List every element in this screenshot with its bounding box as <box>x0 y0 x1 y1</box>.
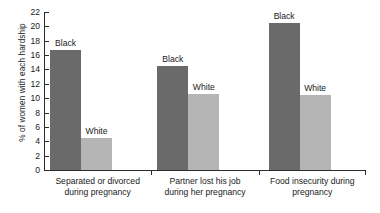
x-axis-group-separator <box>151 170 152 175</box>
plot-area: 0246810121416182022BlackWhiteBlackWhiteB… <box>44 12 366 170</box>
y-axis-tick <box>45 98 49 99</box>
y-axis-tick <box>45 170 49 171</box>
x-axis-category-label-2: Food insecurity duringpregnancy <box>259 176 366 197</box>
bar-chart: % of women with each hardship 0246810121… <box>0 0 380 213</box>
y-axis-tick-label: 8 <box>0 109 40 118</box>
bar-label-black-group-0: Black <box>46 39 86 48</box>
y-axis-tick <box>45 113 49 114</box>
y-axis-tick-label: 2 <box>0 152 40 161</box>
x-axis-line <box>44 170 366 171</box>
y-axis-tick-label: 4 <box>0 137 40 146</box>
bar-black-group-1 <box>157 66 188 170</box>
bar-black-group-2 <box>269 23 300 170</box>
bar-label-white-group-2: White <box>295 84 335 93</box>
y-axis-tick <box>45 156 49 157</box>
x-axis-end-tick <box>365 170 366 175</box>
y-axis-tick-label: 14 <box>0 65 40 74</box>
x-axis-category-label-1: Partner lost his jobduring her pregnancy <box>151 176 258 197</box>
y-axis-tick-label: 6 <box>0 123 40 132</box>
y-axis-tick-label: 16 <box>0 51 40 60</box>
x-axis-category-line: Partner lost his job <box>151 176 258 187</box>
y-axis-tick-label: 12 <box>0 80 40 89</box>
x-axis-group-separator <box>259 170 260 175</box>
y-axis-tick <box>45 26 49 27</box>
x-axis-category-line: Separated or divorced <box>44 176 151 187</box>
bar-white-group-2 <box>300 95 331 170</box>
x-axis-category-line: during pregnancy <box>44 187 151 198</box>
y-axis-tick <box>45 12 49 13</box>
bar-white-group-0 <box>81 138 112 170</box>
x-axis-category-line: Food insecurity during <box>259 176 366 187</box>
y-axis-tick <box>45 84 49 85</box>
bar-black-group-0 <box>50 50 81 170</box>
y-axis-tick-label: 10 <box>0 94 40 103</box>
bar-label-white-group-1: White <box>184 83 224 92</box>
bar-label-black-group-2: Black <box>264 12 304 21</box>
bar-label-white-group-0: White <box>77 127 117 136</box>
x-axis-category-label-0: Separated or divorcedduring pregnancy <box>44 176 151 197</box>
y-axis-tick <box>45 55 49 56</box>
y-axis-tick-label: 0 <box>0 166 40 175</box>
y-axis-line <box>44 12 45 170</box>
bar-label-black-group-1: Black <box>153 55 193 64</box>
y-axis-tick-label: 18 <box>0 37 40 46</box>
y-axis-tick <box>45 127 49 128</box>
bar-white-group-1 <box>188 94 219 170</box>
y-axis-tick-label: 20 <box>0 22 40 31</box>
x-axis-category-line: during her pregnancy <box>151 187 258 198</box>
y-axis-tick <box>45 69 49 70</box>
y-axis-tick <box>45 141 49 142</box>
x-axis-category-line: pregnancy <box>259 187 366 198</box>
y-axis-tick-label: 22 <box>0 8 40 17</box>
